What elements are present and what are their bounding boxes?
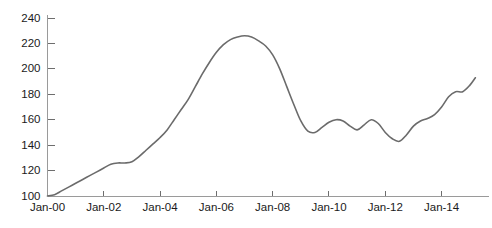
x-tick-label: Jan-06 [199,201,234,213]
y-tick-label: 220 [21,37,40,49]
x-tick-label: Jan-10 [311,201,346,213]
x-tick-label: Jan-08 [255,201,290,213]
data-series-group [48,36,476,196]
x-tick-label: Jan-12 [368,201,403,213]
series-line-index [48,36,476,196]
x-tick-label: Jan-04 [143,201,179,213]
y-tick-label: 140 [21,139,40,151]
y-tick-label: 100 [21,190,40,202]
x-tick-label: Jan-02 [86,201,121,213]
y-tick-label: 200 [21,62,40,74]
chart-canvas: 100120140160180200220240 Jan-00Jan-02Jan… [0,0,492,228]
y-tick-label: 120 [21,164,40,176]
y-tick-label: 160 [21,113,40,125]
y-tick-label: 240 [21,12,40,24]
x-tick-label: Jan-14 [424,201,460,213]
y-axis: 100120140160180200220240 [21,12,54,202]
x-axis: Jan-00Jan-02Jan-04Jan-06Jan-08Jan-10Jan-… [30,191,489,213]
line-chart: 100120140160180200220240 Jan-00Jan-02Jan… [0,0,492,228]
x-tick-label: Jan-00 [30,201,65,213]
y-tick-label: 180 [21,88,40,100]
y-axis-ticks: 100120140160180200220240 [21,12,54,202]
x-axis-ticks: Jan-00Jan-02Jan-04Jan-06Jan-08Jan-10Jan-… [30,191,460,213]
